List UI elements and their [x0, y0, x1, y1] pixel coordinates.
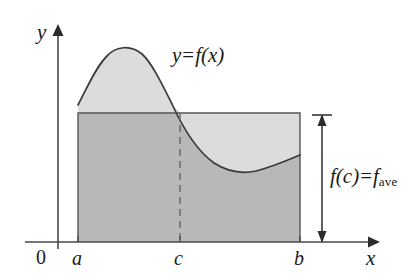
y-axis-label: y	[37, 22, 46, 43]
tick-label-c: c	[174, 248, 183, 268]
measure-label-f2: f	[373, 164, 379, 188]
origin-label: 0	[36, 247, 46, 267]
curve-label-equals: =	[181, 43, 195, 67]
curve-equation-label: y=f(x)	[172, 45, 224, 66]
tick-label-b: b	[294, 248, 304, 268]
average-value-label: f(c)=fave	[330, 166, 398, 187]
x-axis-label: x	[366, 248, 375, 269]
measure-label-subscript: ave	[379, 174, 398, 189]
measure-label-c: (c)	[336, 164, 359, 188]
integral-mean-value-figure	[0, 0, 418, 279]
figure-canvas: y x 0 a c b y=f(x) f(c)=fave	[0, 0, 418, 279]
y-axis-arrowhead	[53, 24, 64, 36]
measure-arrowhead-top	[318, 114, 327, 126]
curve-label-arg: (x)	[201, 43, 224, 67]
curve-label-y: y	[172, 43, 181, 67]
measure-label-equals: =	[359, 164, 373, 188]
tick-label-a: a	[72, 248, 82, 268]
